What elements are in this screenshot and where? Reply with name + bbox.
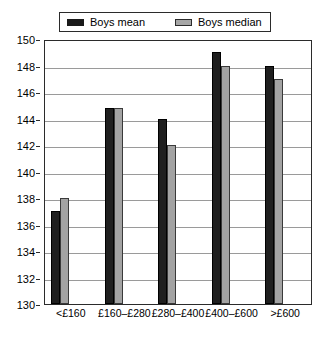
legend-label-boys-mean: Boys mean (90, 17, 145, 28)
y-tick-label: 132 (17, 273, 35, 284)
y-tick-label: 138 (17, 194, 35, 205)
y-tick-mark (36, 93, 40, 94)
bar-boys-mean (105, 108, 114, 304)
y-axis: 130132134136138140142144146148150 (0, 40, 40, 305)
y-tick-label: 150 (17, 35, 35, 46)
bar-boys-mean (265, 66, 274, 305)
y-tick-mark (36, 67, 40, 68)
bar-group (259, 41, 313, 304)
y-tick-label: 144 (17, 114, 35, 125)
x-tick-label: £160–£280 (98, 308, 151, 319)
x-tick-label: £280–£400 (152, 308, 205, 319)
bar-group (45, 41, 99, 304)
bar-boys-median (60, 198, 69, 304)
chart-legend: Boys mean Boys median (59, 12, 271, 32)
y-tick-label: 148 (17, 61, 35, 72)
y-tick-label: 142 (17, 141, 35, 152)
y-tick-mark (36, 146, 40, 147)
bar-boys-median (274, 79, 283, 304)
x-axis: <£160£160–£280£280–£400£400–£600>£600 (44, 308, 312, 328)
legend-entry-boys-median: Boys median (175, 13, 262, 31)
bar-group (99, 41, 153, 304)
bar-boys-mean (212, 52, 221, 304)
y-tick-mark (36, 173, 40, 174)
legend-label-boys-median: Boys median (198, 17, 262, 28)
y-tick-label: 136 (17, 220, 35, 231)
y-tick-label: 130 (17, 300, 35, 311)
y-tick-label: 146 (17, 88, 35, 99)
x-tick-label: £400–£600 (205, 308, 258, 319)
bar-series-container (45, 41, 311, 304)
bar-chart: Boys mean Boys median 130132134136138140… (0, 0, 327, 339)
y-tick-mark (36, 40, 40, 41)
y-tick-mark (36, 199, 40, 200)
bar-boys-mean (158, 119, 167, 305)
bar-boys-median (167, 145, 176, 304)
y-tick-label: 134 (17, 247, 35, 258)
bar-group (206, 41, 260, 304)
y-tick-mark (36, 252, 40, 253)
y-tick-mark (36, 305, 40, 306)
bar-boys-median (114, 108, 123, 304)
x-tick-label: <£160 (56, 308, 86, 319)
plot-area (44, 40, 312, 305)
y-tick-label: 140 (17, 167, 35, 178)
y-tick-mark (36, 279, 40, 280)
legend-entry-boys-mean: Boys mean (67, 13, 145, 31)
legend-swatch-icon-boys-mean (67, 19, 84, 26)
legend-swatch-icon-boys-median (175, 19, 192, 26)
y-tick-mark (36, 120, 40, 121)
bar-group (152, 41, 206, 304)
bar-boys-mean (51, 211, 60, 304)
x-tick-label: >£600 (270, 308, 300, 319)
bar-boys-median (221, 66, 230, 305)
y-tick-mark (36, 226, 40, 227)
